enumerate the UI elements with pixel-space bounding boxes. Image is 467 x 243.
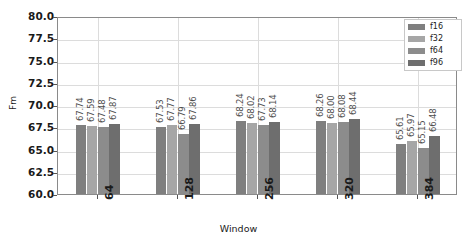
bar xyxy=(167,125,178,194)
y-axis-tick-label: 75.0 xyxy=(12,56,54,67)
bar-value-label: 66.48 xyxy=(428,109,438,132)
x-axis-title-text: Window xyxy=(220,223,257,234)
legend: f16f32f64f96 xyxy=(404,19,462,71)
legend-label: f32 xyxy=(430,35,443,43)
bar xyxy=(316,121,327,195)
legend-label: f96 xyxy=(430,59,443,67)
x-axis-tick-mark xyxy=(97,195,98,199)
y-axis-tick-label: 60.0 xyxy=(12,189,54,200)
y-axis-tick-label: 77.5 xyxy=(12,33,54,44)
legend-swatch-icon xyxy=(408,48,425,54)
bar xyxy=(327,123,338,194)
x-axis-tick-mark xyxy=(257,195,258,199)
x-axis-title: Window xyxy=(0,223,467,234)
bar-value-label: 67.87 xyxy=(108,97,118,120)
legend-label: f64 xyxy=(430,47,443,55)
bar-value-label: 65.61 xyxy=(395,117,405,140)
bar-value-label: 68.14 xyxy=(268,94,278,117)
y-axis-tick-mark xyxy=(53,39,57,40)
bar-value-label: 67.86 xyxy=(188,97,198,120)
y-axis-tick-mark xyxy=(53,128,57,129)
y-axis-tick-mark xyxy=(53,151,57,152)
legend-swatch-icon xyxy=(408,36,425,42)
bar xyxy=(236,121,247,194)
legend-item[interactable]: f32 xyxy=(408,34,459,44)
y-axis-tick-label: 70.0 xyxy=(12,100,54,111)
bar-group: 67.7467.5967.4867.87 xyxy=(76,18,121,194)
bar xyxy=(407,141,418,194)
y-axis-tick-label: 72.5 xyxy=(12,78,54,89)
y-axis-tick-mark xyxy=(53,17,57,18)
y-axis-ticks: 80.077.575.072.570.067.565.062.560.0 xyxy=(12,0,54,243)
y-axis-tick-mark xyxy=(53,173,57,174)
x-axis-tick-mark xyxy=(177,195,178,199)
x-axis-tick-label: 128 xyxy=(183,177,196,200)
legend-swatch-icon xyxy=(408,24,425,30)
bar-group: 68.2668.0068.0868.44 xyxy=(316,18,361,194)
bar-value-label: 65.97 xyxy=(406,114,416,137)
legend-item[interactable]: f96 xyxy=(408,58,459,68)
bar-value-label: 68.24 xyxy=(235,93,245,116)
bar-group: 67.5367.7766.7967.86 xyxy=(156,18,201,194)
x-axis-tick-label: 256 xyxy=(263,177,276,200)
bar-value-label: 67.77 xyxy=(166,98,176,121)
bar xyxy=(87,126,98,194)
legend-label: f16 xyxy=(430,23,443,31)
legend-item[interactable]: f16 xyxy=(408,22,459,32)
y-axis-tick-mark xyxy=(53,84,57,85)
x-axis-tick-label: 320 xyxy=(343,177,356,200)
x-axis-tick-mark xyxy=(417,195,418,199)
y-axis-tick-label: 67.5 xyxy=(12,122,54,133)
bar-value-label: 68.02 xyxy=(246,95,256,118)
x-axis-tick-mark xyxy=(337,195,338,199)
bar xyxy=(76,125,87,194)
bar-group: 68.2468.0267.7368.14 xyxy=(236,18,281,194)
bar xyxy=(156,127,167,194)
bar-value-label: 68.44 xyxy=(348,92,358,115)
bar-chart: Fm 80.077.575.072.570.067.565.062.560.0 … xyxy=(0,0,467,243)
bar-value-label: 67.48 xyxy=(97,100,107,123)
bar-value-label: 68.26 xyxy=(315,93,325,116)
bar-value-label: 67.53 xyxy=(155,100,165,123)
y-axis-tick-mark xyxy=(53,195,57,196)
y-axis-tick-mark xyxy=(53,62,57,63)
bar xyxy=(396,144,407,194)
plot-area: 67.7467.5967.4867.8767.5367.7766.7967.86… xyxy=(57,17,457,195)
bar-value-label: 66.79 xyxy=(177,106,187,129)
bar-value-label: 65.15 xyxy=(417,121,427,144)
bar-value-label: 68.00 xyxy=(326,95,336,118)
y-axis-tick-mark xyxy=(53,106,57,107)
y-axis-tick-label: 62.5 xyxy=(12,167,54,178)
x-axis-tick-label: 384 xyxy=(423,177,436,200)
bar-value-label: 67.59 xyxy=(86,99,96,122)
bar-value-label: 67.74 xyxy=(75,98,85,121)
legend-item[interactable]: f64 xyxy=(408,46,459,56)
bar-value-label: 67.73 xyxy=(257,98,267,121)
x-axis-tick-label: 64 xyxy=(103,185,116,200)
bar xyxy=(247,123,258,194)
y-axis-tick-label: 80.0 xyxy=(12,11,54,22)
bar xyxy=(109,124,120,194)
bar-value-label: 68.08 xyxy=(337,95,347,118)
legend-swatch-icon xyxy=(408,60,425,66)
y-axis-tick-label: 65.0 xyxy=(12,145,54,156)
